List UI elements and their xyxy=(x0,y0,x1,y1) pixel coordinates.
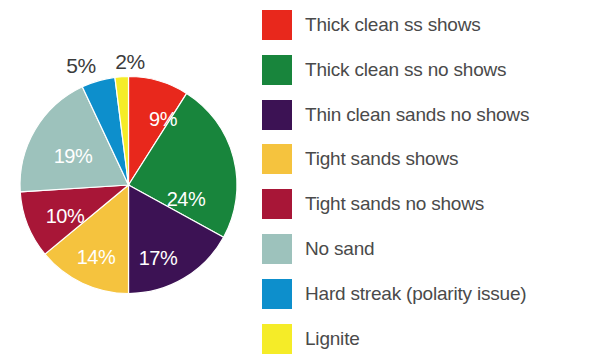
legend-item[interactable]: Thick clean ss shows xyxy=(262,9,481,41)
pie-chart-svg: 9%24%17%14%10%19% 5%2% xyxy=(0,0,258,364)
legend-color-swatch xyxy=(262,55,292,85)
legend-item-label: Tight sands shows xyxy=(305,148,458,170)
legend-item-label: Thick clean ss shows xyxy=(305,14,481,36)
pie-chart-figure: 9%24%17%14%10%19% 5%2% Thick clean ss sh… xyxy=(0,0,601,364)
legend-color-swatch xyxy=(262,189,292,219)
pie-slice-value-label: 14% xyxy=(77,246,116,268)
legend-color-swatch xyxy=(262,279,292,309)
pie-slice-value-label: 10% xyxy=(46,205,85,227)
pie-slice-value-label: 17% xyxy=(139,247,178,269)
pie-slice-value-label: 9% xyxy=(149,108,178,130)
legend-item-label: Hard streak (polarity issue) xyxy=(305,283,526,305)
legend-item[interactable]: Lignite xyxy=(262,323,360,355)
legend-item[interactable]: Hard streak (polarity issue) xyxy=(262,278,526,310)
pie-slice-value-label: 2% xyxy=(115,50,144,73)
legend-color-swatch xyxy=(262,100,292,130)
pie-slice-value-label: 5% xyxy=(66,54,95,77)
pie-slice-value-label: 24% xyxy=(167,188,206,210)
legend-color-swatch xyxy=(262,10,292,40)
legend-color-swatch xyxy=(262,234,292,264)
legend-item-label: Thin clean sands no shows xyxy=(305,104,529,126)
legend-item[interactable]: Thin clean sands no shows xyxy=(262,99,529,131)
pie-chart-area: 9%24%17%14%10%19% 5%2% xyxy=(0,0,258,364)
legend-item[interactable]: Thick clean ss no shows xyxy=(262,54,506,86)
legend-item[interactable]: Tight sands shows xyxy=(262,143,458,175)
legend-item[interactable]: No sand xyxy=(262,233,374,265)
legend-item-label: No sand xyxy=(305,238,374,260)
legend-item-label: Lignite xyxy=(305,328,360,350)
pie-outside-labels-group: 5%2% xyxy=(66,50,144,77)
legend-color-swatch xyxy=(262,144,292,174)
pie-slices-group xyxy=(20,77,237,294)
legend-color-swatch xyxy=(262,324,292,354)
legend-item[interactable]: Tight sands no shows xyxy=(262,188,484,220)
legend-item-label: Thick clean ss no shows xyxy=(305,59,506,81)
chart-legend: Thick clean ss showsThick clean ss no sh… xyxy=(262,6,601,364)
legend-item-label: Tight sands no shows xyxy=(305,193,484,215)
pie-slice-value-label: 19% xyxy=(54,145,93,167)
